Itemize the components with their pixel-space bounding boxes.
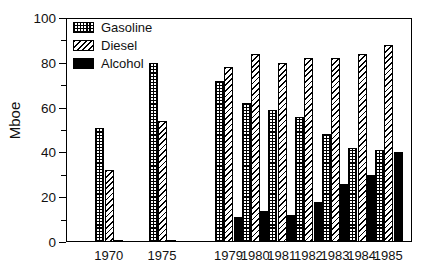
x-tick-label-1984: 1984 [347, 248, 376, 263]
y-tick-minor [61, 40, 66, 41]
x-tick-label-1979: 1979 [214, 248, 243, 263]
legend-item-gasoline: Gasoline [73, 20, 152, 35]
x-tick-label-1975: 1975 [148, 248, 177, 263]
x-tick-label-1982: 1982 [294, 248, 323, 263]
y-tick-label: 60 [12, 100, 56, 115]
y-tick-major [59, 242, 66, 243]
x-tick-label-1980: 1980 [241, 248, 270, 263]
legend-item-diesel: Diesel [73, 38, 152, 53]
legend-label-diesel: Diesel [101, 38, 137, 53]
y-tick-major [59, 63, 66, 64]
y-tick-major [59, 152, 66, 153]
x-tick-label-1970: 1970 [94, 248, 123, 263]
x-tick-label-1985: 1985 [374, 248, 403, 263]
y-tick-label: 20 [12, 190, 56, 205]
y-tick-label: 0 [12, 235, 56, 250]
y-tick-minor [61, 220, 66, 221]
legend-label-gasoline: Gasoline [101, 20, 152, 35]
crosshatch-swatch-icon [73, 22, 94, 33]
y-tick-minor [61, 85, 66, 86]
y-tick-label: 80 [12, 55, 56, 70]
diagonal-hatch-swatch-icon [73, 40, 94, 51]
x-tick-label-1981: 1981 [267, 248, 296, 263]
chart-legend: Gasoline Diesel Alcohol [73, 20, 152, 71]
y-tick-major [59, 108, 66, 109]
y-tick-minor [61, 175, 66, 176]
y-tick-major [59, 18, 66, 19]
bar-chart: Mboe 020406080100 1970197519791980198119… [0, 0, 428, 269]
y-tick-minor [61, 130, 66, 131]
legend-label-alcohol: Alcohol [101, 56, 144, 71]
y-tick-major [59, 197, 66, 198]
legend-item-alcohol: Alcohol [73, 56, 152, 71]
y-tick-label: 100 [12, 11, 56, 26]
x-tick-label-1983: 1983 [321, 248, 350, 263]
y-tick-label: 40 [12, 145, 56, 160]
solid-black-swatch-icon [73, 58, 94, 69]
